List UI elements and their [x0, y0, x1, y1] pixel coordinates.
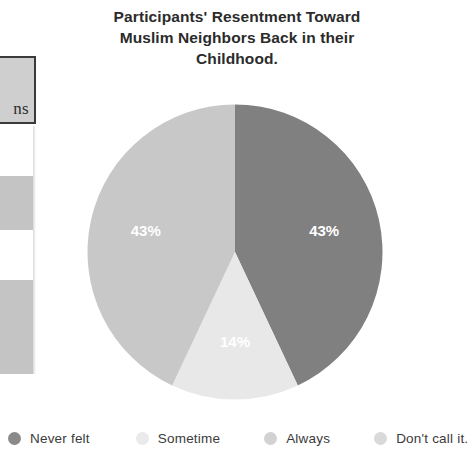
legend-item-sometime[interactable]: Sometime — [136, 431, 220, 446]
legend-label: Always — [286, 431, 330, 446]
table-row — [0, 230, 33, 280]
table-edge-shadow — [33, 126, 36, 374]
chart-title: Participants' Resentment Toward Muslim N… — [64, 6, 410, 69]
legend-swatch-icon — [264, 432, 277, 445]
table-row — [0, 280, 33, 326]
table-row — [0, 176, 33, 230]
legend-label: Sometime — [158, 431, 220, 446]
pie-chart-svg: 43% 43% 14% — [87, 104, 383, 400]
table-row — [0, 326, 33, 374]
table-row — [0, 126, 33, 176]
cropped-table-fragment: ns — [0, 56, 36, 374]
pie-chart: 43% 43% 14% — [87, 104, 383, 400]
pie-label-never-felt: 43% — [309, 222, 339, 239]
pie-label-always: 43% — [131, 222, 161, 239]
legend-swatch-icon — [136, 432, 149, 445]
chart-title-line-2: Muslim Neighbors Back in their — [64, 27, 410, 48]
legend-item-never-felt[interactable]: Never felt — [8, 431, 90, 446]
table-header-text: ns — [13, 100, 29, 117]
legend-label: Don't call it. — [396, 431, 468, 446]
chart-legend: Never felt Sometime Always Don't call it… — [0, 425, 428, 451]
legend-item-dont-call-it[interactable]: Don't call it. — [374, 431, 468, 446]
chart-title-line-3: Childhood. — [64, 48, 410, 69]
legend-label: Never felt — [30, 431, 90, 446]
table-header-cell: ns — [0, 56, 36, 124]
legend-swatch-icon — [374, 432, 387, 445]
pie-slice-group — [88, 105, 383, 400]
legend-swatch-icon — [8, 432, 21, 445]
legend-item-always[interactable]: Always — [264, 431, 330, 446]
pie-label-sometime: 14% — [220, 333, 250, 350]
chart-title-line-1: Participants' Resentment Toward — [64, 6, 410, 27]
